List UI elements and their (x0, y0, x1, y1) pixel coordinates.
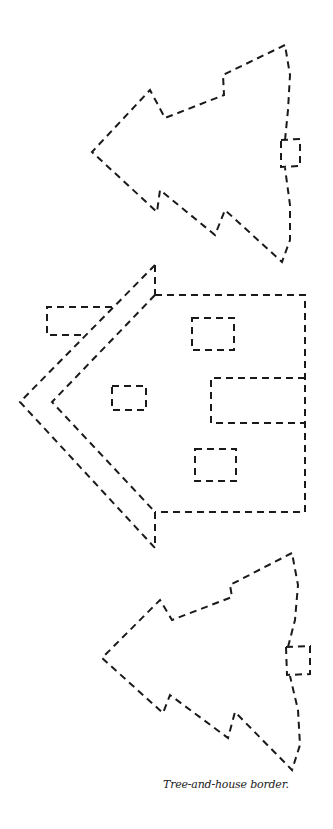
house-inner-roof (52, 295, 155, 512)
figure-caption: Tree-and-house border. (163, 778, 289, 791)
tree-top-trunk (281, 139, 300, 167)
tree-top (92, 45, 300, 262)
house (20, 265, 305, 548)
tree-bottom-trunk (286, 646, 310, 675)
tree-bottom-outline (102, 553, 300, 770)
border-illustration (0, 0, 333, 829)
house-window-2 (112, 386, 146, 410)
house-window-3 (195, 449, 236, 481)
house-walls (155, 295, 305, 512)
house-chimney (47, 307, 112, 335)
house-window-1 (192, 318, 234, 350)
tree-top-outline (92, 45, 290, 262)
tree-bottom (102, 553, 310, 770)
house-door (211, 378, 305, 423)
